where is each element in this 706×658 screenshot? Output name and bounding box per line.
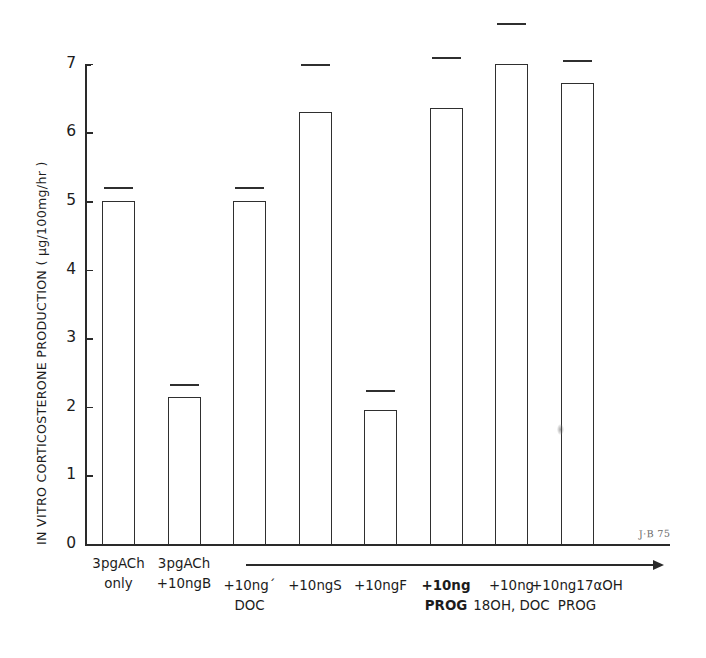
error-cap-6	[432, 57, 461, 59]
y-tick-label: 5	[66, 193, 76, 209]
y-tick-label: 6	[66, 125, 76, 141]
plot-area: 01234567	[85, 60, 670, 550]
error-cap-3	[235, 187, 264, 189]
y-tick-mark	[86, 475, 93, 477]
bar-1	[102, 201, 135, 544]
y-tick-label: 0	[66, 536, 76, 552]
x-axis-label-8: +10ng17αOH PROG	[525, 576, 629, 616]
bar-6	[430, 108, 463, 544]
treatment-range-arrow	[246, 564, 654, 566]
x-axis-baseline	[85, 544, 670, 546]
y-tick-label: 1	[66, 468, 76, 484]
bar-7	[495, 64, 528, 544]
scan-artifact-smudge	[557, 424, 564, 435]
bar-2	[168, 397, 201, 544]
error-cap-1	[104, 187, 133, 189]
error-cap-8	[563, 60, 592, 62]
y-tick-mark	[86, 270, 93, 272]
y-tick-mark	[86, 407, 93, 409]
figure-canvas: IN VITRO CORTICOSTERONE PRODUCTION ( µg/…	[0, 0, 706, 658]
y-tick-mark	[86, 132, 93, 134]
y-tick-mark	[86, 338, 93, 340]
y-tick-label: 2	[66, 399, 76, 415]
y-tick-label: 4	[66, 262, 76, 278]
y-tick-mark	[86, 64, 93, 66]
y-axis-title: IN VITRO CORTICOSTERONE PRODUCTION ( µg/…	[22, 45, 62, 545]
error-cap-4	[301, 64, 330, 66]
bar-3	[233, 201, 266, 544]
artist-signature: J·B 75	[639, 528, 671, 540]
error-cap-2	[170, 384, 199, 386]
error-cap-5	[366, 390, 395, 392]
y-tick-label: 3	[66, 330, 76, 346]
y-tick-mark	[86, 201, 93, 203]
bar-5	[364, 410, 397, 544]
bar-4	[299, 112, 332, 544]
error-cap-7	[497, 23, 526, 25]
y-tick-label: 7	[66, 56, 76, 72]
bar-8	[561, 83, 594, 544]
y-axis-line	[85, 65, 87, 545]
